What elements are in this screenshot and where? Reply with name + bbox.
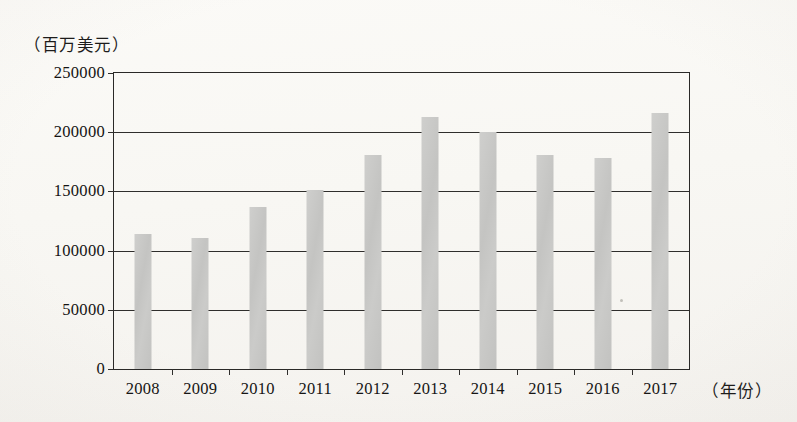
x-axis-tick xyxy=(574,369,575,375)
x-axis-tick xyxy=(459,369,460,375)
bar xyxy=(307,190,324,369)
y-axis-tick-label: 250000 xyxy=(54,63,105,83)
bar xyxy=(479,132,496,369)
bar xyxy=(652,113,669,369)
y-axis-tick-label: 0 xyxy=(96,359,105,379)
bar xyxy=(422,117,439,369)
x-axis-unit-label: （年份） xyxy=(702,378,772,402)
y-axis-unit-label: （百万美元） xyxy=(24,32,129,56)
y-axis-tick-label: 100000 xyxy=(54,240,105,260)
y-axis-tick-label: 150000 xyxy=(54,181,105,201)
y-axis-tick xyxy=(108,73,114,74)
x-axis-tick-label: 2012 xyxy=(356,379,390,399)
x-axis-tick-label: 2010 xyxy=(241,379,275,399)
x-axis-tick-label: 2014 xyxy=(471,379,505,399)
gridline xyxy=(114,132,689,133)
x-axis-tick xyxy=(632,369,633,375)
y-axis-tick xyxy=(108,191,114,192)
bar xyxy=(134,234,151,369)
x-axis-tick xyxy=(344,369,345,375)
y-axis-tick-label: 50000 xyxy=(62,299,105,319)
x-axis-tick-label: 2008 xyxy=(126,379,160,399)
bar xyxy=(249,207,266,369)
x-axis-tick-label: 2013 xyxy=(413,379,447,399)
x-axis-tick xyxy=(172,369,173,375)
x-axis-tick xyxy=(402,369,403,375)
x-axis-tick-label: 2017 xyxy=(643,379,677,399)
bar xyxy=(364,155,381,369)
bar xyxy=(594,158,611,369)
bar xyxy=(537,155,554,369)
plot-area: 050000100000150000200000250000 200820092… xyxy=(113,72,690,370)
x-axis-tick xyxy=(287,369,288,375)
bar-chart-figure: （百万美元） 050000100000150000200000250000 20… xyxy=(0,0,797,422)
x-axis-tick-label: 2015 xyxy=(528,379,562,399)
y-axis-tick xyxy=(108,369,114,370)
x-axis-tick-label: 2009 xyxy=(183,379,217,399)
y-axis-tick xyxy=(108,251,114,252)
bar xyxy=(192,238,209,369)
x-axis-tick-label: 2016 xyxy=(586,379,620,399)
x-axis-tick xyxy=(229,369,230,375)
x-axis-tick-label: 2011 xyxy=(298,379,332,399)
y-axis-tick xyxy=(108,132,114,133)
scan-artifact-speck xyxy=(620,299,623,302)
y-axis-tick xyxy=(108,310,114,311)
y-axis-tick-label: 200000 xyxy=(54,122,105,142)
x-axis-tick xyxy=(517,369,518,375)
